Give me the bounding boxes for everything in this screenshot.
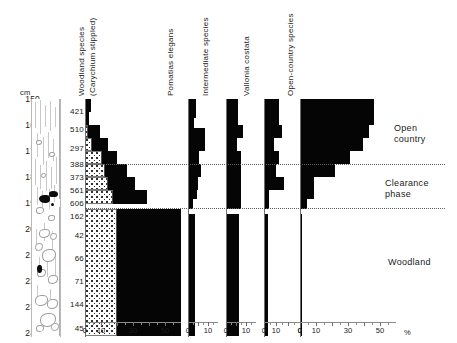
header-line-1: Open-country species xyxy=(286,13,295,96)
counts-rule-lower xyxy=(59,207,60,336)
scale-tick-label: 10 xyxy=(97,326,106,335)
bar-segment xyxy=(301,151,350,164)
header-line-1: Pomatias elegans xyxy=(166,28,175,96)
zone-boundary-open-country-clearance xyxy=(85,164,445,165)
stratigraphic-diagram: cm 150 160 170 180 190 200 210 220 230 2… xyxy=(0,0,457,343)
zone-label-line-1: Woodland xyxy=(388,257,431,268)
bar-segment xyxy=(189,214,195,336)
count-value: 42 xyxy=(60,232,84,240)
bar-segment xyxy=(301,177,314,190)
percent-symbol: % xyxy=(404,328,411,337)
bar-segment xyxy=(189,190,197,199)
bar-segment-stippled xyxy=(86,177,108,190)
header-line-1: Vallonia costata xyxy=(242,36,251,96)
bar-segment xyxy=(189,177,198,190)
bar-segment xyxy=(265,138,274,151)
count-value: 297 xyxy=(60,145,84,153)
scale-tick-label: 0 xyxy=(224,326,228,335)
bar-segment xyxy=(189,151,199,164)
bar-segment xyxy=(301,125,369,138)
column-intermediate-species xyxy=(226,99,256,337)
count-value: 561 xyxy=(60,187,84,195)
bar-segment-stippled xyxy=(86,151,102,164)
bar-segment xyxy=(301,164,335,177)
scale-tick-label: 10 xyxy=(242,326,251,335)
count-value: 606 xyxy=(60,200,84,208)
scale-tick-label: 0 xyxy=(262,326,266,335)
scale-tick-label: 50 xyxy=(376,326,385,335)
scale-tick-label: 0 xyxy=(83,326,87,335)
bar-segment xyxy=(301,214,302,336)
count-value: 71 xyxy=(60,278,84,286)
header-line-1: Woodland species xyxy=(77,27,86,96)
header-pomatias-elegans: Pomatias elegans xyxy=(175,4,189,96)
bar-segment xyxy=(265,214,268,336)
count-value: 510 xyxy=(60,126,84,134)
bar-segment xyxy=(227,138,237,151)
scale-woodland-species: 0 10 30 50 xyxy=(85,322,185,336)
bar-segment xyxy=(227,99,238,125)
header-line-2: (Carychium stippled) xyxy=(88,18,97,96)
column-pomatias-elegans xyxy=(188,99,218,337)
bar-segment xyxy=(227,190,241,209)
bar-segment-stippled xyxy=(86,138,92,151)
count-value: 45 xyxy=(60,325,84,333)
header-open-country-species: Open-country species xyxy=(295,4,309,96)
bar-segment xyxy=(301,99,374,125)
bar-segment xyxy=(189,99,196,118)
bar-segment-stippled xyxy=(86,190,113,204)
scale-tick-label: 0 xyxy=(186,326,190,335)
bar-segment xyxy=(265,177,284,190)
bar-segment xyxy=(86,112,89,125)
scale-tick-label: 10 xyxy=(272,326,281,335)
zone-label-line-1: Open xyxy=(394,123,426,134)
bar-segment xyxy=(189,128,205,151)
zone-boundary-clearance-woodland xyxy=(85,208,445,209)
scale-intermediate-species: 0 10 xyxy=(226,322,260,336)
bar-segment xyxy=(86,125,100,138)
sample-count-column: 421 510 297 388 373 561 606 162 42 66 71… xyxy=(58,99,84,337)
bar-segment xyxy=(227,177,241,190)
header-line-1: Intermediate species xyxy=(201,17,210,96)
zone-label-woodland: Woodland xyxy=(388,257,431,268)
scale-tick-label: 0 xyxy=(298,326,302,335)
bar-segment xyxy=(227,214,239,336)
column-woodland-species xyxy=(85,99,180,337)
plot-area xyxy=(85,99,375,337)
count-value: 144 xyxy=(60,301,84,309)
bar-segment xyxy=(301,138,363,151)
header-woodland-species: Woodland species (Carychium stippled) xyxy=(86,4,100,96)
bar-segment xyxy=(265,151,279,164)
header-intermediate-species: Intermediate species xyxy=(210,4,224,96)
bar-segment xyxy=(265,125,282,138)
zone-label-clearance-phase: Clearance phase xyxy=(385,178,429,200)
count-value: 373 xyxy=(60,174,84,182)
zone-label-line-1: Clearance xyxy=(385,178,429,189)
column-open-country-species xyxy=(300,99,380,337)
bar-segment xyxy=(227,125,243,138)
scale-tick-label: 10 xyxy=(312,326,321,335)
bar-segment-stippled xyxy=(86,125,88,138)
lithology-column xyxy=(31,99,61,337)
bar-segment xyxy=(189,118,194,128)
bar-segment xyxy=(265,164,276,177)
zone-label-line-2: phase xyxy=(385,189,429,200)
header-vallonia-costata: Vallonia costata xyxy=(251,4,265,96)
column-vallonia-costata xyxy=(264,99,294,337)
bar-segment xyxy=(265,99,279,125)
bar-segment xyxy=(265,190,269,209)
count-value: 162 xyxy=(60,213,84,221)
scale-pomatias-elegans: 0 10 xyxy=(188,322,222,336)
bar-segment xyxy=(301,190,314,199)
count-value: 388 xyxy=(60,161,84,169)
scale-tick-label: 30 xyxy=(344,326,353,335)
zone-label-line-2: country xyxy=(394,134,426,145)
bar-segment-stippled xyxy=(86,209,117,336)
count-value: 421 xyxy=(60,108,84,116)
bar-segment-stippled xyxy=(86,164,105,177)
zone-label-open-country: Open country xyxy=(394,123,426,145)
count-value: 66 xyxy=(60,255,84,263)
scale-tick-label: 50 xyxy=(161,326,170,335)
scale-open-country-species: 0 10 30 50 xyxy=(300,322,400,336)
scale-tick-label: 30 xyxy=(129,326,138,335)
